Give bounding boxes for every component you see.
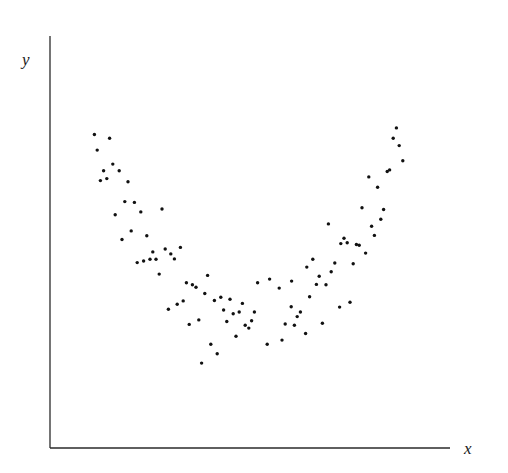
data-point [102, 169, 105, 172]
data-point [182, 299, 185, 302]
data-point [342, 237, 345, 240]
data-point [338, 305, 341, 308]
data-point [247, 326, 250, 329]
data-point [209, 343, 212, 346]
data-point [253, 310, 256, 313]
data-point [148, 258, 151, 261]
data-point [200, 361, 203, 364]
data-point [130, 229, 133, 232]
data-point [268, 277, 271, 280]
data-point [118, 169, 121, 172]
data-point [114, 213, 117, 216]
data-point [266, 343, 269, 346]
data-point [136, 261, 139, 264]
data-point [370, 225, 373, 228]
data-point [388, 168, 391, 171]
data-points [93, 126, 405, 365]
data-point [93, 133, 96, 136]
data-point [142, 259, 145, 262]
data-point [256, 281, 259, 284]
data-point [290, 305, 293, 308]
data-point [145, 234, 148, 237]
data-point [219, 296, 222, 299]
data-point [398, 144, 401, 147]
data-point [206, 274, 209, 277]
data-point [191, 283, 194, 286]
data-point [108, 137, 111, 140]
data-point [250, 319, 253, 322]
data-point [179, 246, 182, 249]
scatter-plot [0, 0, 508, 473]
data-point [305, 265, 308, 268]
data-point [318, 275, 321, 278]
data-point [194, 286, 197, 289]
data-point [278, 286, 281, 289]
data-point [99, 179, 102, 182]
data-point [339, 242, 342, 245]
data-point [151, 250, 154, 253]
data-point [401, 159, 404, 162]
data-point [376, 186, 379, 189]
data-point [296, 315, 299, 318]
data-point [293, 324, 296, 327]
data-point [234, 335, 237, 338]
data-point [327, 222, 330, 225]
x-axis-label: x [464, 440, 472, 457]
data-point [213, 299, 216, 302]
data-point [241, 302, 244, 305]
data-point [364, 251, 367, 254]
data-point [158, 272, 161, 275]
data-point [96, 148, 99, 151]
data-point [160, 207, 163, 210]
data-point [225, 320, 228, 323]
data-point [290, 279, 293, 282]
data-point [330, 270, 333, 273]
data-point [352, 262, 355, 265]
data-point [185, 281, 188, 284]
data-point [321, 322, 324, 325]
data-point [299, 310, 302, 313]
data-point [373, 234, 376, 237]
data-point [367, 175, 370, 178]
data-point [333, 261, 336, 264]
data-point [358, 244, 361, 247]
data-point [395, 126, 398, 129]
data-point [228, 298, 231, 301]
data-point [244, 324, 247, 327]
data-point [392, 137, 395, 140]
data-point [280, 338, 283, 341]
data-point [176, 303, 179, 306]
data-point [123, 200, 126, 203]
data-point [304, 332, 307, 335]
data-point [164, 247, 167, 250]
data-point [284, 322, 287, 325]
data-point [232, 312, 235, 315]
data-point [360, 206, 363, 209]
data-point [216, 352, 219, 355]
data-point [120, 238, 123, 241]
y-axis-label: y [22, 51, 30, 68]
data-point [188, 323, 191, 326]
data-point [346, 241, 349, 244]
data-point [133, 201, 136, 204]
data-point [308, 295, 311, 298]
data-point [203, 292, 206, 295]
data-point [315, 283, 318, 286]
data-point [111, 162, 114, 165]
data-point [348, 301, 351, 304]
data-point [154, 258, 157, 261]
data-point [169, 252, 172, 255]
data-point [197, 318, 200, 321]
data-point [311, 258, 314, 261]
data-point [139, 210, 142, 213]
data-point [167, 308, 170, 311]
data-point [105, 177, 108, 180]
data-point [222, 308, 225, 311]
data-point [126, 180, 129, 183]
data-point [379, 218, 382, 221]
data-point [324, 283, 327, 286]
data-point [173, 257, 176, 260]
data-point [382, 208, 385, 211]
data-point [238, 310, 241, 313]
